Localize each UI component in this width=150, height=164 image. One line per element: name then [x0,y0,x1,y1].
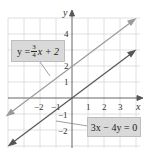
x-tick-label: 1 [86,102,91,112]
y-tick-label: −2 [58,126,68,136]
y-tick-label: −1 [58,110,68,120]
x-tick-label: 2 [102,102,107,112]
eq1-fraction: 3 4 [31,44,37,59]
equation-label-2: 3x − 4y = 0 [87,117,141,137]
line-y-equals-three-quarters-x-plus-2 [7,19,135,116]
y-axis-arrow-icon [70,10,75,16]
x-tick-label: 3 [118,102,123,112]
x-tick-label: −2 [34,102,44,112]
y-tick-label: 4 [64,29,69,39]
equation-label-1: y = 3 4 x + 2 [11,40,65,62]
coordinate-plane: x y −2 −1 1 2 3 4 2 1 −1 −2 [0,0,150,164]
leader-line-eq1 [40,62,50,76]
x-axis-label: x [135,101,141,112]
eq1-rhs: x + 2 [38,46,59,57]
x-axis-arrow-icon [137,96,143,101]
eq1-lhs: y = [17,46,30,57]
eq1-denominator: 4 [32,52,36,59]
eq2-text: 3x − 4y = 0 [91,122,137,133]
y-axis-label: y [62,7,68,18]
y-tick-label: 1 [64,77,69,87]
